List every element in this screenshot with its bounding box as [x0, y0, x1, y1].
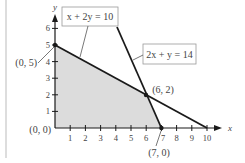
eq2-label: 2x + y = 14	[146, 49, 192, 60]
label-0-5: (0, 5)	[15, 57, 37, 69]
svg-text:2: 2	[46, 90, 50, 100]
svg-text:4: 4	[46, 57, 51, 67]
svg-text:3: 3	[98, 133, 102, 143]
label-6-2: (6, 2)	[152, 84, 174, 96]
svg-text:1: 1	[46, 106, 50, 116]
linear-programming-graph: 1 2 3 4 5 6 7 8 9 10 1 2 3 4 5 6 x y x +…	[0, 0, 245, 163]
vertex-0-5	[53, 43, 57, 47]
svg-text:5: 5	[46, 40, 50, 50]
x-axis-arrow-icon	[214, 125, 222, 131]
label-7-0: (7, 0)	[148, 147, 170, 159]
eq1-leader-line	[80, 26, 88, 57]
svg-text:6: 6	[46, 23, 50, 33]
svg-text:8: 8	[174, 133, 178, 143]
y-tick-labels: 1 2 3 4 5 6	[46, 23, 51, 116]
x-tick-labels: 1 2 3 4 5 6 7 8 9 10	[68, 133, 211, 143]
y-axis-label: y	[52, 2, 57, 12]
svg-text:9: 9	[190, 133, 194, 143]
vertex-6-2	[144, 93, 148, 97]
vertex-7-0	[159, 126, 163, 130]
eq2-leader-line	[133, 55, 143, 60]
svg-text:10: 10	[203, 133, 212, 143]
svg-text:2: 2	[83, 133, 87, 143]
svg-text:4: 4	[114, 133, 119, 143]
svg-text:5: 5	[129, 133, 133, 143]
y-axis-arrow-icon	[52, 14, 58, 22]
svg-text:1: 1	[68, 133, 72, 143]
svg-text:3: 3	[46, 73, 50, 83]
eq1-label: x + 2y = 10	[67, 11, 113, 22]
label-0-0: (0, 0)	[29, 124, 51, 136]
svg-text:7: 7	[161, 133, 165, 143]
x-axis-label: x	[227, 123, 232, 133]
svg-text:6: 6	[144, 133, 148, 143]
